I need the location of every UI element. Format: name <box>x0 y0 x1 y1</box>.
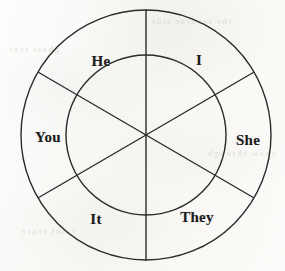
sector-label-i: I <box>196 52 202 69</box>
sector-label-he: He <box>92 53 111 70</box>
pronoun-wheel-diagram: the reverse side ghost text show through… <box>0 0 285 271</box>
sector-label-it: It <box>90 211 101 228</box>
sector-label-you: You <box>35 129 61 146</box>
sector-label-they: They <box>180 209 214 226</box>
sector-label-she: She <box>236 132 260 149</box>
